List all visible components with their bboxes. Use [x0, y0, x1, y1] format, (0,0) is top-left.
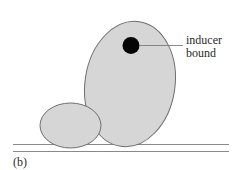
diagram-canvas: inducer bound (b)	[0, 0, 240, 170]
inducer-dot	[123, 37, 140, 54]
annotation-line-2: bound	[186, 46, 216, 60]
annotation-line-1: inducer	[186, 33, 222, 47]
small-subunit-ellipse	[40, 103, 101, 148]
panel-label: (b)	[13, 155, 27, 169]
